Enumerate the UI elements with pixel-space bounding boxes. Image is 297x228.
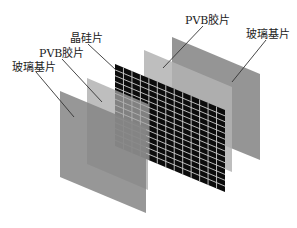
leader-cells	[88, 44, 116, 70]
label-front-pvb: PVB胶片	[39, 46, 84, 60]
label-back-glass: 玻璃基片	[246, 27, 290, 41]
label-cells: 晶硅片	[70, 32, 103, 45]
layer-stack-diagram: 玻璃基片 PVB胶片 晶硅片 PVB胶片 玻璃基片	[0, 0, 297, 228]
label-back-pvb: PVB胶片	[185, 13, 230, 27]
label-front-glass: 玻璃基片	[12, 60, 56, 74]
